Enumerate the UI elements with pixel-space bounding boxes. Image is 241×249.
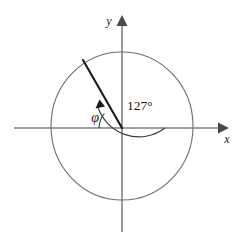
y-axis-arrowhead (117, 15, 128, 26)
angle-diagram-canvas: y x 127° φ (0, 0, 241, 249)
angle-diagram-figure: y x 127° φ (0, 0, 241, 249)
angle-label-phi: φ (91, 110, 99, 125)
angle-label-127: 127° (127, 98, 153, 113)
x-axis-label: x (223, 132, 230, 146)
y-axis-label: y (105, 14, 112, 28)
terminal-side-ray (83, 60, 122, 128)
angle-arc-arrowhead (96, 100, 106, 109)
